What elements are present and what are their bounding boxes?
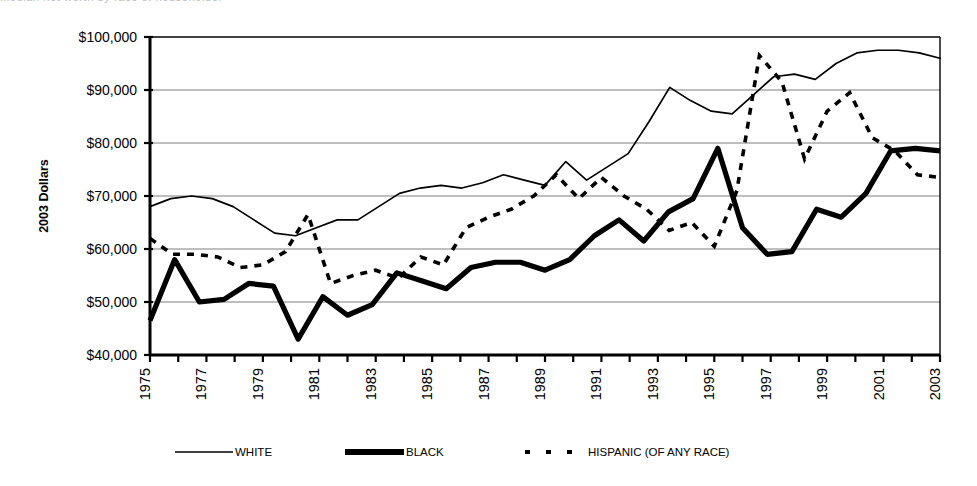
line-chart: 2003 Dollars $100,000$90,000$80,000$70,0… <box>0 0 977 486</box>
series-line-black <box>150 148 940 339</box>
y-tick-label: $80,000 <box>86 135 137 151</box>
x-tick-label: 1987 <box>476 368 492 400</box>
x-tick-label: 1993 <box>645 368 661 400</box>
x-tick-label: 1975 <box>137 368 153 400</box>
x-tick-label: 1977 <box>193 368 209 400</box>
gridlines <box>150 90 940 355</box>
clipped-caption-text: median net worth by race of householder <box>0 0 223 3</box>
plot-frame <box>149 37 940 356</box>
data-series-group <box>150 50 940 339</box>
y-tick-label: $50,000 <box>86 294 137 310</box>
y-tick-label: $60,000 <box>86 241 137 257</box>
chart-legend: WHITE BLACK HISPANIC (OF ANY RACE) <box>175 446 730 458</box>
x-tick-label: 2003 <box>927 368 943 400</box>
legend-item-hispanic: HISPANIC (OF ANY RACE) <box>525 446 730 458</box>
y-tick-labels: $100,000$90,000$80,000$70,000$60,000$50,… <box>79 29 138 363</box>
clipped-caption-artifact: median net worth by race of householder <box>0 0 977 8</box>
legend-label-white: WHITE <box>235 446 272 458</box>
x-tick-label: 1991 <box>588 368 604 400</box>
x-tick-label: 1983 <box>363 368 379 400</box>
y-tick-label: $90,000 <box>86 82 137 98</box>
y-axis-title: 2003 Dollars <box>37 159 51 233</box>
x-tick-label: 1985 <box>419 368 435 400</box>
chart-figure: median net worth by race of householder … <box>0 0 977 486</box>
x-tick-label: 1997 <box>758 368 774 400</box>
legend-label-hispanic: HISPANIC (OF ANY RACE) <box>588 446 730 458</box>
x-tick-label: 1989 <box>532 368 548 400</box>
y-axis-title-text: 2003 Dollars <box>37 159 51 233</box>
x-tick-labels: 1975197719791981198319851987198919911993… <box>137 368 943 400</box>
y-tick-label: $40,000 <box>86 347 137 363</box>
legend-label-black: BLACK <box>406 446 444 458</box>
x-tick-label: 1979 <box>250 368 266 400</box>
y-tick-label: $100,000 <box>79 29 138 45</box>
x-tick-label: 1981 <box>306 368 322 400</box>
legend-item-white: WHITE <box>175 446 272 458</box>
y-tick-label: $70,000 <box>86 188 137 204</box>
x-tick-label: 1995 <box>701 368 717 400</box>
x-tick-label: 2001 <box>871 368 887 400</box>
legend-item-black: BLACK <box>345 446 444 458</box>
x-tick-label: 1999 <box>814 368 830 400</box>
